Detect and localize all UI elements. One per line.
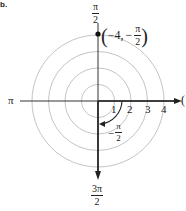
radial-tick-2: 2 — [127, 103, 133, 115]
radial-tick-4: 4 — [161, 103, 167, 115]
angle-label-pi: π — [8, 95, 14, 106]
radial-tick-3: 3 — [145, 103, 151, 115]
point-label: ( −4, − π 2 ) — [101, 24, 148, 47]
angle-label-3pi-over-2: 3π 2 — [91, 184, 103, 207]
polar-grid — [0, 0, 186, 211]
plotted-point — [95, 31, 100, 36]
radial-tick-1: 1 — [111, 103, 117, 115]
ray-arrowhead-down — [95, 171, 101, 180]
angle-label-0: ( — [181, 94, 185, 106]
angle-label-pi-over-2: π 2 — [92, 2, 99, 25]
angle-arc-arrowhead — [99, 121, 105, 127]
arc-angle-label: − π 2 — [108, 122, 122, 143]
